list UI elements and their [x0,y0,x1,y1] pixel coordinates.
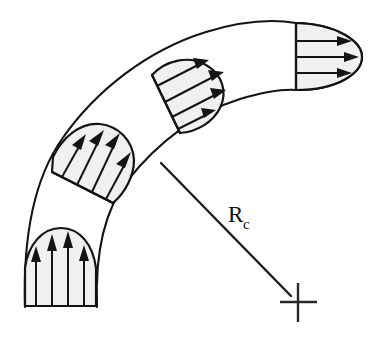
figure-root: R c [0,0,380,338]
station-inlet [25,228,96,306]
radius-of-curvature-group: R c [161,163,317,322]
curved-duct-diagram: R c [0,0,380,338]
radius-of-curvature-line [161,163,291,296]
station-outlet [296,23,362,90]
radius-label: R [228,202,244,227]
radius-label-subscript: c [243,216,250,232]
station-3 [152,58,226,133]
